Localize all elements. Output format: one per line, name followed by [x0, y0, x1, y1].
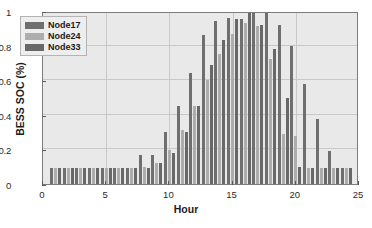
bar-group: [277, 13, 290, 184]
bar: [147, 168, 150, 184]
bar-group: [315, 13, 328, 184]
x-tick-label: 10: [163, 189, 174, 200]
x-tick-label: 5: [103, 189, 108, 200]
bar: [303, 84, 306, 184]
y-tick-label: 0.8: [0, 41, 11, 52]
bar: [227, 18, 230, 184]
bar: [282, 134, 285, 184]
bar: [336, 168, 339, 184]
bar: [235, 19, 238, 184]
bar: [240, 19, 243, 184]
bar-group: [340, 13, 353, 184]
x-tick-label: 0: [39, 189, 44, 200]
bar-group: [87, 13, 100, 184]
bar: [294, 136, 297, 184]
bar: [311, 168, 314, 184]
figure-canvas: BESS SOC (%) 00.20.40.60.810510152025 Ho…: [0, 0, 372, 228]
bar-group: [252, 13, 265, 184]
bar: [202, 35, 205, 184]
bar: [92, 168, 95, 184]
bar: [139, 155, 142, 184]
y-tick-label: 0.6: [0, 76, 11, 87]
bar-group: [289, 13, 302, 184]
y-axis-label-wrap: BESS SOC (%): [2, 0, 18, 185]
bar: [286, 98, 289, 185]
bar: [214, 21, 217, 184]
y-tick-mark: [42, 150, 46, 151]
x-tick-mark: [232, 181, 233, 185]
bar: [134, 168, 137, 184]
bar-group: [163, 13, 176, 184]
bar-group: [113, 13, 126, 184]
bar-group: [214, 13, 227, 184]
bar: [222, 40, 225, 184]
y-tick-mark: [42, 116, 46, 117]
y-tick-mark: [42, 12, 46, 13]
bar: [265, 12, 268, 184]
x-tick-mark: [105, 181, 106, 185]
bar: [67, 168, 70, 184]
bar: [96, 168, 99, 184]
bar: [349, 168, 352, 184]
bar: [328, 151, 331, 184]
bar: [231, 34, 234, 185]
bar: [126, 168, 129, 184]
bar: [324, 168, 327, 184]
bar: [168, 150, 171, 184]
bar: [109, 168, 112, 184]
bar: [113, 168, 116, 184]
legend-item[interactable]: Node24: [25, 31, 81, 41]
bar-series-container: [43, 13, 357, 184]
x-tick-mark: [295, 181, 296, 185]
bar-group: [125, 13, 138, 184]
plot-area: [42, 12, 358, 185]
x-tick-mark: [42, 181, 43, 185]
x-tick-label: 15: [226, 189, 237, 200]
bar: [244, 23, 247, 184]
bar: [273, 49, 276, 184]
bar: [210, 65, 213, 184]
bar: [197, 106, 200, 184]
bar-group: [327, 13, 340, 184]
bar: [71, 168, 74, 184]
bar-group: [176, 13, 189, 184]
y-tick-label: 1: [6, 7, 11, 18]
bar: [316, 119, 319, 184]
bar: [75, 168, 78, 184]
bar: [260, 25, 263, 184]
bar-group: [302, 13, 315, 184]
bar: [193, 106, 196, 184]
legend-swatch-icon: [25, 22, 44, 29]
bar: [50, 168, 53, 184]
bar-group: [201, 13, 214, 184]
bar: [155, 163, 158, 184]
bar: [177, 106, 180, 184]
bar: [341, 168, 344, 184]
bar-group: [226, 13, 239, 184]
bar: [101, 168, 104, 184]
bar: [181, 130, 184, 184]
bar-group: [239, 13, 252, 184]
bar: [269, 59, 272, 184]
x-tick-mark: [358, 181, 359, 185]
legend-item-label: Node33: [48, 43, 81, 52]
bar: [290, 46, 293, 184]
legend-item[interactable]: Node17: [25, 20, 81, 30]
bar-group: [100, 13, 113, 184]
bar: [54, 168, 57, 184]
bar: [189, 73, 192, 184]
legend-item-label: Node24: [48, 32, 81, 41]
bar: [206, 80, 209, 184]
bar: [143, 167, 146, 184]
bar: [164, 132, 167, 184]
y-tick-mark: [42, 81, 46, 82]
x-axis-label: Hour: [0, 203, 372, 215]
legend-item[interactable]: Node33: [25, 42, 81, 52]
bar: [151, 155, 154, 184]
bar: [332, 168, 335, 184]
y-tick-label: 0.4: [0, 110, 11, 121]
bar: [79, 168, 82, 184]
legend-swatch-icon: [25, 33, 44, 40]
bar: [298, 167, 301, 184]
chart-legend: Node17Node24Node33: [20, 16, 87, 56]
